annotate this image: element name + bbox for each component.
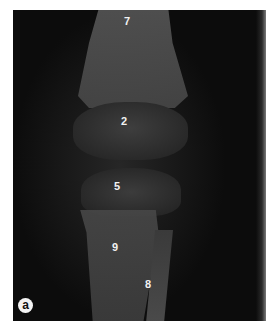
femoral-epiphysis — [73, 102, 188, 160]
label-8: 8 — [145, 279, 151, 290]
tibial-epiphysis — [81, 168, 181, 216]
label-7: 7 — [124, 16, 130, 27]
label-9: 9 — [112, 242, 118, 253]
panel-label-badge: a — [18, 298, 33, 313]
label-2: 2 — [121, 116, 127, 127]
edge-gradient — [256, 10, 266, 321]
knee-xray-image: 7 2 5 9 8 a — [13, 10, 266, 321]
label-5: 5 — [114, 181, 120, 192]
